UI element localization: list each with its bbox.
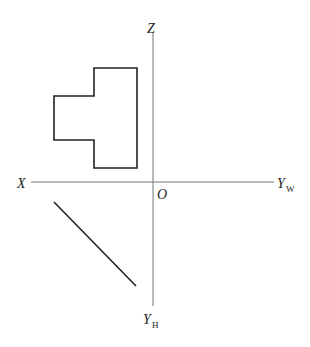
yw-axis-subscript: W <box>286 184 295 194</box>
projection-diagram: Z X O Y W Y H <box>0 0 310 347</box>
front-view-shape <box>54 68 137 168</box>
x-axis-label: X <box>16 176 26 191</box>
z-axis-label: Z <box>147 21 155 36</box>
origin-label: O <box>157 187 167 202</box>
top-view-line <box>54 202 136 286</box>
yh-axis-subscript: H <box>152 320 159 330</box>
